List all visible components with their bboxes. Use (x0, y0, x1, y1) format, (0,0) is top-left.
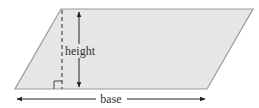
parallelogram-diagram: height base (0, 0, 259, 108)
parallelogram-shape (15, 9, 253, 89)
base-label: base (100, 92, 121, 106)
height-label: height (65, 44, 96, 58)
